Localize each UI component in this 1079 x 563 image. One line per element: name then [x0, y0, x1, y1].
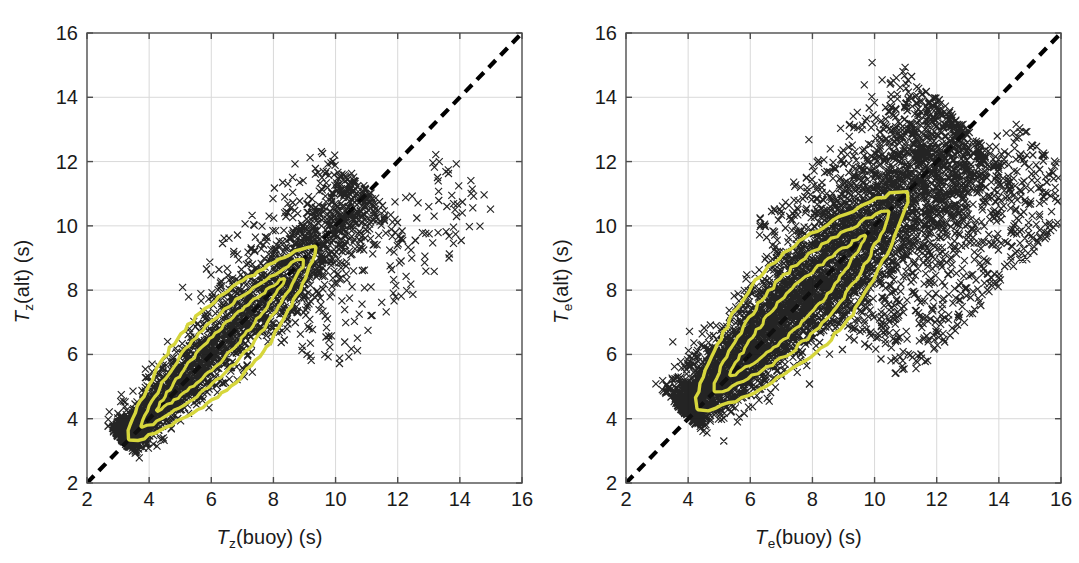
y-tick-label: 14 [595, 86, 617, 108]
x-tick-label: 10 [863, 488, 885, 510]
y-tick-label: 12 [56, 151, 78, 173]
y-tick-label: 10 [595, 215, 617, 237]
x-tick-label: 12 [387, 488, 409, 510]
panel-right-plot: 246810121416246810121416 [539, 0, 1078, 563]
y-tick-label: 8 [67, 279, 78, 301]
x-tick-label: 8 [268, 488, 279, 510]
scatter-figure: 246810121416246810121416 Tz(buoy) (s) Tz… [0, 0, 1079, 563]
x-tick-label: 10 [324, 488, 346, 510]
y-axis-subscript: e [560, 304, 575, 312]
panel-left-x-axis-title: Tz(buoy) (s) [0, 526, 539, 551]
x-tick-label: 2 [620, 488, 631, 510]
x-axis-variable: T [755, 526, 767, 548]
x-tick-label: 14 [988, 488, 1010, 510]
y-tick-label: 14 [56, 86, 78, 108]
y-tick-label: 6 [606, 343, 617, 365]
panel-left: 246810121416246810121416 Tz(buoy) (s) Tz… [0, 0, 539, 563]
y-tick-label: 10 [56, 215, 78, 237]
y-tick-label: 2 [606, 472, 617, 494]
y-tick-label: 6 [67, 343, 78, 365]
x-tick-label: 16 [511, 488, 533, 510]
x-axis-units: (buoy) (s) [236, 526, 323, 548]
x-tick-label: 2 [81, 488, 92, 510]
x-axis-variable: T [217, 526, 229, 548]
x-tick-label: 8 [807, 488, 818, 510]
x-tick-label: 4 [144, 488, 155, 510]
panel-right: 246810121416246810121416 Te(buoy) (s) Te… [539, 0, 1078, 563]
y-tick-label: 2 [67, 472, 78, 494]
x-tick-label: 14 [449, 488, 471, 510]
y-axis-variable: T [550, 311, 572, 323]
panel-right-y-axis-title: Te(alt) (s) [547, 0, 575, 563]
y-tick-label: 4 [67, 408, 78, 430]
y-tick-label: 8 [606, 279, 617, 301]
y-tick-label: 12 [595, 151, 617, 173]
x-axis-subscript: z [229, 536, 236, 551]
x-axis-units: (buoy) (s) [775, 526, 862, 548]
y-axis-subscript: z [21, 304, 36, 311]
panel-right-x-axis-title: Te(buoy) (s) [539, 526, 1078, 551]
y-axis-units: (alt) (s) [550, 239, 572, 303]
y-tick-label: 16 [595, 22, 617, 44]
x-tick-label: 12 [926, 488, 948, 510]
x-tick-label: 6 [745, 488, 756, 510]
y-tick-label: 4 [606, 408, 617, 430]
x-tick-label: 16 [1050, 488, 1072, 510]
y-axis-units: (alt) (s) [11, 240, 33, 304]
panel-left-plot: 246810121416246810121416 [0, 0, 539, 563]
x-tick-label: 6 [206, 488, 217, 510]
panel-left-y-axis-title: Tz(alt) (s) [8, 0, 36, 563]
y-tick-label: 16 [56, 22, 78, 44]
y-axis-variable: T [11, 311, 33, 323]
x-tick-label: 4 [683, 488, 694, 510]
